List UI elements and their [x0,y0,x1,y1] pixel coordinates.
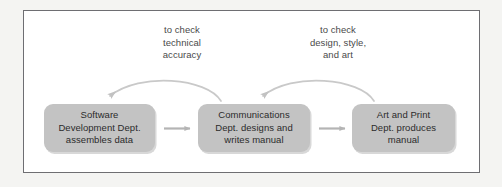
process-box-label: Software Development Dept. assembles dat… [55,109,143,146]
process-box-label: Art and Print Dept. produces manual [368,109,439,146]
process-box-label: Communications Dept. designs and writes … [212,109,295,146]
feedback-label-design-style-art: to check design, style, and art [282,24,394,62]
process-box-software-development[interactable]: Software Development Dept. assembles dat… [44,104,155,152]
process-box-communications[interactable]: Communications Dept. designs and writes … [198,104,310,152]
process-box-art-and-print[interactable]: Art and Print Dept. produces manual [352,104,455,152]
figure-root: Software Development Dept. assembles dat… [0,0,502,187]
feedback-label-technical-accuracy: to check technical accuracy [130,24,234,62]
